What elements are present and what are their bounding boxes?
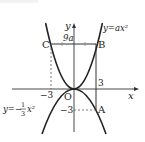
x-axis-arrow-icon [134,87,139,91]
parabola-diagram: y x O y=ax² y=− 1 3 x² C B A 9a −3 3 −3 [0,0,145,142]
svg-text:x²: x² [27,104,36,114]
tick-label-9a: 9a [63,33,73,43]
x-axis-label: x [128,90,134,101]
svg-text:y=−: y=− [2,104,22,114]
svg-text:1: 1 [21,101,25,109]
tick-label-x-pos3: 3 [98,78,104,88]
tick-label-x-neg3: −3 [40,90,54,100]
lower-curve-label: y=− 1 3 x² [2,101,36,118]
tick-label-y-neg3: −3 [60,105,74,115]
y-axis-arrow-icon [72,23,76,28]
upper-curve-label: y=ax² [102,23,129,33]
y-axis-label: y [64,20,71,31]
origin-label: O [64,91,72,102]
point-b-label: B [98,39,105,50]
point-a-label: A [97,104,106,115]
point-c-label: C [42,39,50,50]
svg-text:3: 3 [21,110,25,118]
